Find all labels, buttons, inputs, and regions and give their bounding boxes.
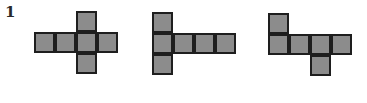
net-square (152, 54, 173, 75)
net-square (55, 32, 76, 53)
net-square (76, 53, 97, 74)
problem-number: 1 (5, 3, 15, 21)
net-square (310, 55, 331, 76)
net-square (215, 33, 236, 54)
net-square (152, 12, 173, 33)
net-square (289, 34, 310, 55)
net-square (76, 32, 97, 53)
net-square (268, 13, 289, 34)
net-square (310, 34, 331, 55)
net-square (97, 32, 118, 53)
net-square (173, 33, 194, 54)
net-square (331, 34, 352, 55)
net-square (194, 33, 215, 54)
net-square (34, 32, 55, 53)
net-square (268, 34, 289, 55)
net-square (152, 33, 173, 54)
net-square (76, 11, 97, 32)
